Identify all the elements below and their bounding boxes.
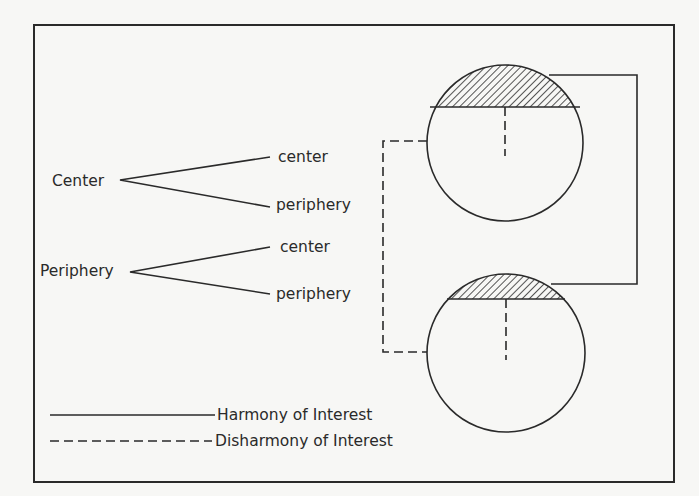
branch-lines-center <box>120 157 270 207</box>
legend-disharmony-label: Disharmony of Interest <box>215 432 393 450</box>
tree-periphery: Periphery center periphery <box>40 238 351 303</box>
top-nation-center-hatch <box>420 60 590 107</box>
branch-label-center-periphery: periphery <box>276 196 351 214</box>
top-nation <box>420 60 590 221</box>
legend-harmony-label: Harmony of Interest <box>217 406 372 424</box>
disharmony-connector <box>383 141 427 352</box>
center-periphery-diagram: Center center periphery Periphery center… <box>0 0 699 496</box>
legend: Harmony of Interest Disharmony of Intere… <box>50 406 393 450</box>
tree-center: Center center periphery <box>52 148 351 214</box>
branch-lines-periphery <box>130 247 270 294</box>
branch-label-center-center: center <box>278 148 328 166</box>
bottom-nation <box>420 270 590 432</box>
branch-label-periphery-periphery: periphery <box>276 285 351 303</box>
root-label-periphery: Periphery <box>40 262 114 280</box>
branch-label-periphery-center: center <box>280 238 330 256</box>
root-label-center: Center <box>52 172 105 190</box>
